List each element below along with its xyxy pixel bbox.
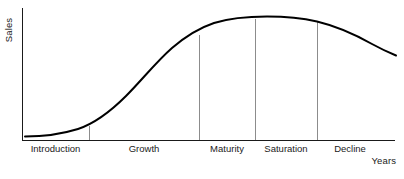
y-axis-label: Sales xyxy=(2,8,16,52)
sales-curve xyxy=(25,17,396,137)
stage-label-introduction: Introduction xyxy=(22,144,89,154)
y-axis-label-text: Sales xyxy=(4,18,14,42)
x-axis-label: Years xyxy=(372,156,396,166)
stage-label-decline: Decline xyxy=(317,144,383,154)
stage-label-maturity: Maturity xyxy=(199,144,255,154)
stage-label-saturation: Saturation xyxy=(255,144,317,154)
product-life-cycle-chart: Sales Years Introduction Growth Maturity… xyxy=(0,0,404,179)
stage-label-growth: Growth xyxy=(89,144,199,154)
